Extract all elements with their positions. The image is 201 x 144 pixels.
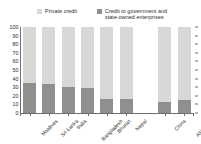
bar-segment-gov-credit	[42, 84, 55, 113]
stacked-bar	[178, 27, 191, 113]
y-tick-mark-right	[195, 78, 198, 79]
x-axis-labels: MaldivesSri LankaIndiaBangladeshBhutanNe…	[20, 116, 194, 144]
bar-group	[97, 27, 116, 113]
bar-group	[59, 27, 78, 113]
stacked-bar	[81, 27, 94, 113]
x-axis-label: ASEAN-4	[195, 118, 201, 138]
y-axis-ticks-right	[194, 27, 195, 113]
bar-group	[20, 27, 39, 113]
legend-item-gov-credit: Credit to government and state-owned ent…	[97, 8, 167, 21]
bar-segment-gov-credit	[62, 87, 75, 113]
bar-segment-private-credit	[178, 27, 191, 100]
bar-segment-private-credit	[100, 27, 113, 99]
y-tick-label: 40	[13, 76, 19, 82]
bar-segment-private-credit	[158, 27, 171, 102]
y-tick-mark-right	[195, 70, 198, 71]
bar-segment-private-credit	[120, 27, 133, 99]
y-tick-label: 0	[16, 110, 19, 116]
x-axis-label: Sri Lanka	[59, 118, 79, 138]
y-tick-label: 50	[13, 67, 19, 73]
legend-swatch-gov-credit-icon	[97, 9, 102, 14]
bar-segment-gov-credit	[158, 102, 171, 113]
y-tick-label: 100	[10, 24, 19, 30]
legend-swatch-private-credit-icon	[37, 9, 42, 14]
stacked-bar	[120, 27, 133, 113]
bar-segment-private-credit	[42, 27, 55, 84]
bar-segment-gov-credit	[178, 100, 191, 113]
bar-group	[117, 27, 136, 113]
y-tick-mark-right	[195, 44, 198, 45]
stacked-bar	[42, 27, 55, 113]
y-tick-mark-right	[195, 61, 198, 62]
y-tick-label: 20	[13, 93, 19, 99]
legend-label-gov-credit: Credit to government and state-owned ent…	[105, 8, 167, 21]
bar-group	[155, 27, 174, 113]
y-tick-mark-right	[195, 87, 198, 88]
x-axis-label: Nepal	[134, 118, 148, 132]
bar-segment-private-credit	[23, 27, 36, 83]
bar-segment-gov-credit	[100, 99, 113, 113]
bar-segment-gov-credit	[81, 88, 94, 113]
legend-label-private-credit: Private credit	[45, 8, 77, 14]
y-tick-label: 90	[13, 33, 19, 39]
bar-segment-private-credit	[62, 27, 75, 87]
y-tick-mark-right	[195, 35, 198, 36]
y-tick-mark-right	[195, 27, 198, 28]
stacked-bar	[62, 27, 75, 113]
chart-legend: Private credit Credit to government and …	[0, 5, 201, 27]
plot-area	[20, 27, 194, 113]
x-axis-label: Maldives	[40, 118, 59, 137]
bar-group	[175, 27, 194, 113]
y-tick-label: 70	[13, 50, 19, 56]
bar-group	[39, 27, 58, 113]
stacked-bar	[23, 27, 36, 113]
y-tick-mark-right	[195, 95, 198, 96]
stacked-bar-chart: Private credit Credit to government and …	[0, 0, 201, 144]
bar-segment-gov-credit	[120, 99, 133, 113]
y-tick-label: 80	[13, 41, 19, 47]
y-tick-mark-right	[195, 52, 198, 53]
y-tick-mark-right	[195, 104, 198, 105]
bar-series-container	[20, 27, 194, 113]
stacked-bar	[158, 27, 171, 113]
legend-item-private-credit: Private credit	[37, 8, 77, 14]
stacked-bar	[100, 27, 113, 113]
y-tick-label: 10	[13, 101, 19, 107]
y-tick-label: 30	[13, 84, 19, 90]
bar-segment-private-credit	[81, 27, 94, 88]
bar-segment-gov-credit	[23, 83, 36, 113]
y-tick-mark-right	[195, 113, 198, 114]
x-axis-label: China	[173, 118, 187, 132]
bar-group	[78, 27, 97, 113]
y-tick-label: 60	[13, 58, 19, 64]
